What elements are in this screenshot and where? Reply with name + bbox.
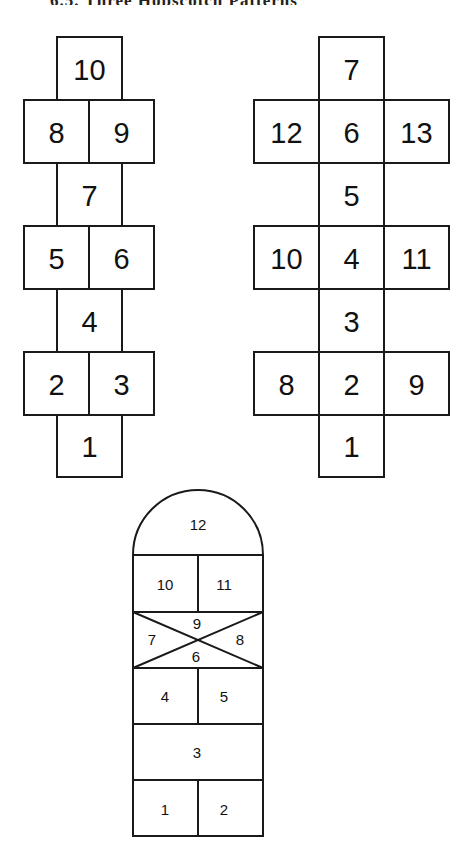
classic-label-3: 3 [113, 369, 129, 401]
hopscotch-diagrams: 10897564231 71261351041138291 12 10 11 9… [0, 0, 471, 847]
dome-label-8: 8 [236, 631, 244, 648]
dome-label-9: 9 [193, 615, 201, 632]
cross-label-10: 10 [270, 243, 302, 275]
classic-label-7: 7 [81, 180, 97, 212]
classic-label-6: 6 [113, 243, 129, 275]
cross-label-3: 3 [343, 306, 359, 338]
cross-label-6: 6 [343, 117, 359, 149]
cross-label-8: 8 [278, 369, 294, 401]
dome-label-12: 12 [190, 516, 207, 533]
hopscotch-dome: 12 10 11 9 7 8 6 4 5 3 1 2 [133, 490, 263, 836]
cross-label-1: 1 [343, 431, 359, 463]
classic-label-2: 2 [48, 369, 64, 401]
cross-label-12: 12 [270, 117, 302, 149]
cross-label-7: 7 [343, 54, 359, 86]
dome-label-11: 11 [216, 576, 232, 593]
classic-label-1: 1 [81, 431, 97, 463]
dome-label-3: 3 [193, 744, 201, 761]
hopscotch-classic: 10897564231 [24, 37, 154, 477]
dome-label-1: 1 [161, 801, 169, 818]
classic-label-8: 8 [48, 117, 64, 149]
classic-label-10: 10 [73, 54, 105, 86]
cross-label-4: 4 [343, 243, 359, 275]
dome-label-6: 6 [192, 648, 200, 665]
dome-label-5: 5 [220, 688, 228, 705]
classic-label-5: 5 [48, 243, 64, 275]
hopscotch-cross: 71261351041138291 [254, 37, 449, 477]
cross-label-11: 11 [401, 243, 431, 275]
classic-label-4: 4 [81, 306, 97, 338]
dome-label-10: 10 [157, 576, 174, 593]
cross-label-13: 13 [400, 117, 432, 149]
cross-label-9: 9 [408, 369, 424, 401]
dome-label-4: 4 [161, 688, 169, 705]
classic-label-9: 9 [113, 117, 129, 149]
cross-label-2: 2 [343, 369, 359, 401]
dome-label-7: 7 [148, 631, 156, 648]
dome-label-2: 2 [220, 801, 228, 818]
cross-label-5: 5 [343, 180, 359, 212]
